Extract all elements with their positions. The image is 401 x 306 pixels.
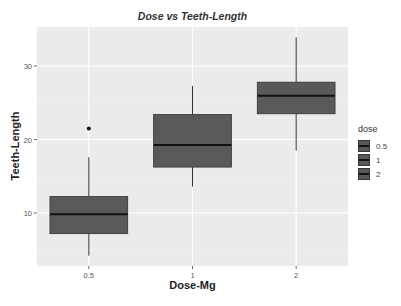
legend-key-icon (358, 154, 370, 166)
legend-item: 1 (358, 153, 387, 167)
legend: dose 0.5 1 2 (358, 124, 387, 181)
y-tick-label: 20 (24, 136, 32, 145)
legend-key-icon (358, 168, 370, 180)
y-tick-label: 10 (24, 209, 32, 218)
legend-item: 0.5 (358, 139, 387, 153)
legend-label: 0.5 (376, 142, 387, 151)
legend-title: dose (358, 124, 387, 134)
legend-key-icon (358, 140, 370, 152)
box-2 (257, 82, 335, 114)
plot-area: 1020300.512 (0, 0, 401, 306)
y-tick-label: 30 (24, 62, 32, 71)
box-1 (154, 115, 232, 168)
outlier-point (87, 126, 91, 130)
x-axis-label: Dose-Mg (37, 279, 348, 291)
legend-item: 2 (358, 167, 387, 181)
y-axis-label: Teeth-Length (9, 111, 21, 181)
legend-label: 1 (376, 156, 380, 165)
legend-label: 2 (376, 170, 380, 179)
